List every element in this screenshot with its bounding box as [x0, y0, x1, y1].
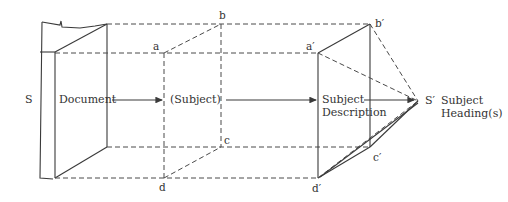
- source-label: S: [25, 93, 33, 106]
- point-b-prime-label: b′: [375, 17, 384, 30]
- book-bottom-diagonal: [55, 147, 107, 178]
- book-torn-top-edge: [42, 21, 107, 28]
- point-d-label: d: [159, 181, 166, 194]
- subject-label: (Subject): [170, 93, 221, 106]
- subject-analysis-diagram: S Document (Subject) Subject Description…: [0, 0, 508, 202]
- point-a-prime-label: a′: [306, 40, 315, 53]
- point-d-prime-label: d′: [312, 182, 321, 195]
- subject-description-label-line2: Description: [322, 106, 387, 119]
- book-spine-outer: [40, 22, 53, 179]
- point-b-label: b: [219, 9, 226, 22]
- point-c-prime-label: c′: [373, 151, 381, 164]
- point-a-label: a: [153, 40, 159, 53]
- document-label: Document: [59, 93, 116, 106]
- subject-headings-label-line1: Subject: [441, 94, 483, 107]
- subject-description-label-line1: Subject: [322, 93, 364, 106]
- target-label: S′: [425, 94, 435, 107]
- subject-headings-label-line2: Heading(s): [441, 107, 503, 120]
- point-c-label: c: [224, 134, 230, 147]
